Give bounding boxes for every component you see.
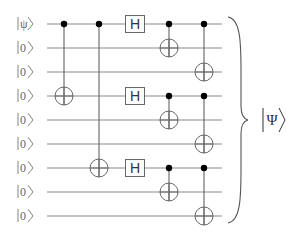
cnot-gate — [195, 93, 213, 153]
svg-text:0: 0 — [20, 161, 26, 175]
control-dot-icon — [61, 21, 67, 27]
input-label: 0 — [18, 113, 33, 127]
quantum-circuit: ψ00000000 HHH Ψ — [0, 0, 300, 235]
cnot-gate — [160, 165, 178, 201]
hadamard-gate: H — [126, 88, 145, 105]
input-label: 0 — [18, 89, 33, 103]
target-xor-icon — [195, 135, 213, 153]
ket-angle — [279, 108, 285, 132]
control-dot-icon — [201, 165, 207, 171]
svg-text:0: 0 — [20, 185, 26, 199]
svg-text:0: 0 — [20, 41, 26, 55]
input-label: 0 — [18, 185, 33, 199]
svg-text:0: 0 — [20, 209, 26, 223]
input-label: 0 — [18, 137, 33, 151]
cnot-gate — [160, 21, 178, 57]
svg-text:0: 0 — [20, 89, 26, 103]
control-dot-icon — [96, 21, 102, 27]
cnot-gate — [55, 21, 73, 105]
output-state: Ψ — [228, 17, 285, 223]
svg-text:ψ: ψ — [20, 17, 28, 31]
svg-text:0: 0 — [20, 113, 26, 127]
cnot-gate — [195, 165, 213, 225]
svg-text:H: H — [130, 88, 140, 104]
target-xor-icon — [195, 63, 213, 81]
control-dot-icon — [201, 21, 207, 27]
control-dot-icon — [201, 93, 207, 99]
target-xor-icon — [160, 39, 178, 57]
cnot-gate — [160, 93, 178, 129]
input-label: 0 — [18, 161, 33, 175]
hadamard-gate: H — [126, 16, 145, 33]
svg-text:0: 0 — [20, 65, 26, 79]
target-xor-icon — [90, 159, 108, 177]
output-state-symbol: Ψ — [267, 112, 279, 128]
target-xor-icon — [195, 207, 213, 225]
qubit-wires — [47, 24, 222, 216]
input-label: ψ — [18, 17, 33, 31]
cnot-gate — [195, 21, 213, 81]
hadamard-gate: H — [126, 160, 145, 177]
input-label: 0 — [18, 41, 33, 55]
target-xor-icon — [160, 111, 178, 129]
curly-brace-icon — [228, 17, 248, 223]
input-label: 0 — [18, 209, 33, 223]
svg-text:H: H — [130, 16, 140, 32]
input-labels: ψ00000000 — [18, 17, 33, 223]
input-label: 0 — [18, 65, 33, 79]
control-dot-icon — [166, 165, 172, 171]
control-dot-icon — [166, 93, 172, 99]
cnot-gate — [90, 21, 108, 177]
control-dot-icon — [166, 21, 172, 27]
svg-text:0: 0 — [20, 137, 26, 151]
svg-text:H: H — [130, 160, 140, 176]
target-xor-icon — [160, 183, 178, 201]
target-xor-icon — [55, 87, 73, 105]
